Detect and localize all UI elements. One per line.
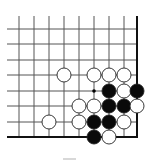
white-stone[interactable] <box>130 99 144 113</box>
white-stone[interactable] <box>117 68 131 82</box>
white-stone[interactable] <box>117 84 131 98</box>
black-stone[interactable] <box>87 115 101 129</box>
black-stone[interactable] <box>102 99 116 113</box>
black-stone[interactable] <box>117 99 131 113</box>
black-stone[interactable] <box>102 115 116 129</box>
black-stone[interactable] <box>87 130 101 144</box>
black-stone[interactable] <box>102 84 116 98</box>
white-stone[interactable] <box>87 68 101 82</box>
white-stone[interactable] <box>87 99 101 113</box>
white-stone[interactable] <box>102 130 116 144</box>
white-stone[interactable] <box>57 68 71 82</box>
white-stone[interactable] <box>72 115 86 129</box>
black-stone[interactable] <box>130 84 144 98</box>
white-stone[interactable] <box>72 99 86 113</box>
caption-underline <box>63 158 76 160</box>
white-stone[interactable] <box>102 68 116 82</box>
white-stone[interactable] <box>42 115 56 129</box>
markers <box>92 89 96 93</box>
point-marker-dot <box>92 89 96 93</box>
go-board[interactable] <box>0 0 153 150</box>
white-stone[interactable] <box>117 115 131 129</box>
